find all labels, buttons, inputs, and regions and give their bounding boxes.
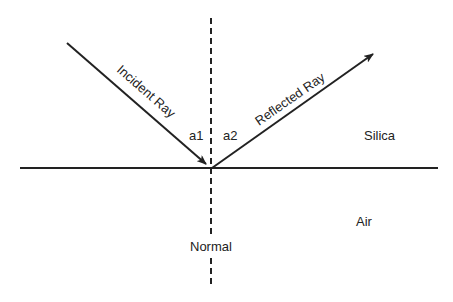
angle-a2-label: a2 <box>223 128 237 143</box>
reflection-diagram: Incident Ray Reflected Ray a1 a2 Silica … <box>0 0 453 302</box>
normal-label: Normal <box>190 239 232 254</box>
reflected-ray-label: Reflected Ray <box>252 69 328 128</box>
medium-silica-label: Silica <box>364 128 396 143</box>
reflected-ray-arrow <box>212 54 373 168</box>
medium-air-label: Air <box>356 214 373 229</box>
incident-ray-arrow <box>67 43 206 164</box>
angle-a1-label: a1 <box>189 128 203 143</box>
